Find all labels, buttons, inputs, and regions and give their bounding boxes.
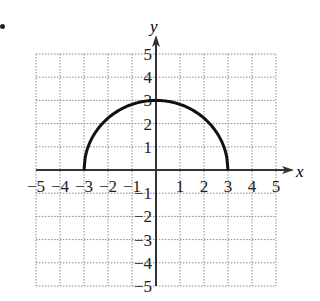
x-tick-label: −4 [51, 177, 70, 196]
y-tick-label: 4 [144, 68, 153, 87]
y-axis-label: y [148, 17, 158, 36]
x-tick-label: 2 [200, 177, 209, 196]
x-tick-label: −5 [27, 177, 45, 196]
x-tick-label: −3 [75, 177, 93, 196]
y-tick-label: −1 [134, 184, 152, 203]
y-tick-label: −3 [134, 231, 152, 250]
x-axis-label: x [295, 162, 304, 181]
y-tick-label: −4 [134, 254, 153, 273]
coordinate-plane: −5−4−3−2−11234554321−1−2−3−4−5 x y [0, 0, 320, 301]
y-tick-label: 5 [144, 45, 153, 64]
x-tick-label: 1 [176, 177, 185, 196]
y-tick-label: 1 [144, 138, 153, 157]
x-tick-label: 5 [272, 177, 281, 196]
x-tick-label: 3 [224, 177, 233, 196]
x-tick-label: −2 [99, 177, 117, 196]
axes [36, 35, 294, 286]
y-tick-label: −5 [134, 277, 152, 296]
x-tick-label: 4 [248, 177, 257, 196]
y-tick-label: −2 [134, 207, 152, 226]
y-tick-label: 2 [144, 115, 153, 134]
